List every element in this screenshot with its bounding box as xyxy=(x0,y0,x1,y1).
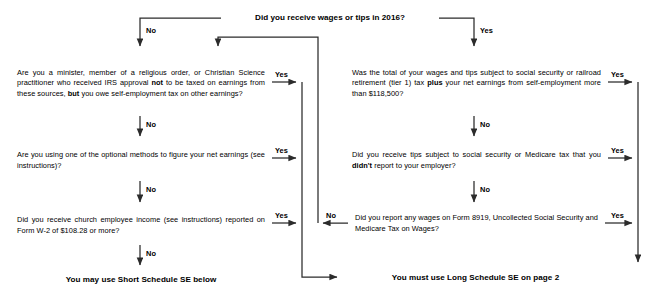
node-unreported-tips: Did you receive tips subject to social s… xyxy=(345,141,608,181)
edge-label-wage-total-no: No xyxy=(480,120,490,129)
node-short-se-label: You may use Short Schedule SE below xyxy=(10,275,272,286)
edge-label-start-no: No xyxy=(146,26,156,35)
node-short-se: You may use Short Schedule SE below xyxy=(10,269,272,291)
node-wage-total-label: Was the total of your wages and tips sub… xyxy=(345,68,608,100)
edge-label-minister-yes: Yes xyxy=(275,70,288,79)
node-wage-total: Was the total of your wages and tips sub… xyxy=(345,51,608,116)
edge-label-optional-no: No xyxy=(146,185,156,194)
node-form-8919-label: Did you report any wages on Form 8919, U… xyxy=(348,213,605,234)
node-form-8919: Did you report any wages on Form 8919, U… xyxy=(348,206,605,242)
edge-label-minister-no: No xyxy=(146,120,156,129)
edge-start-yes xyxy=(439,18,474,46)
edge-label-start-yes: Yes xyxy=(480,26,493,35)
edge-label-church-yes: Yes xyxy=(275,211,288,220)
edge-label-tips-yes: Yes xyxy=(611,146,624,155)
node-church-income-label: Did you receive church employee income (… xyxy=(10,215,272,236)
edge-label-form8919-no: No xyxy=(326,211,336,220)
edge-label-form8919-yes: Yes xyxy=(611,211,624,220)
node-church-income: Did you receive church employee income (… xyxy=(10,206,272,245)
schedule-se-flowchart: Did you receive wages or tips in 2016? A… xyxy=(0,0,650,297)
edge-label-tips-no: No xyxy=(480,185,490,194)
node-start: Did you receive wages or tips in 2016? xyxy=(221,7,439,29)
edge-label-wage-total-yes: Yes xyxy=(611,70,624,79)
node-minister: Are you a minister, member of a religiou… xyxy=(10,51,272,116)
node-optional-methods-label: Are you using one of the optional method… xyxy=(10,150,272,171)
node-optional-methods: Are you using one of the optional method… xyxy=(10,141,272,181)
node-minister-label: Are you a minister, member of a religiou… xyxy=(10,68,272,100)
edge-label-optional-yes: Yes xyxy=(275,146,288,155)
node-start-label: Did you receive wages or tips in 2016? xyxy=(221,13,439,24)
edge-label-church-no: No xyxy=(146,249,156,258)
rail-left-yes-collector xyxy=(302,82,337,277)
node-unreported-tips-label: Did you receive tips subject to social s… xyxy=(345,150,608,171)
node-long-se: You must use Long Schedule SE on page 2 xyxy=(343,266,608,290)
node-long-se-label: You must use Long Schedule SE on page 2 xyxy=(343,273,608,284)
